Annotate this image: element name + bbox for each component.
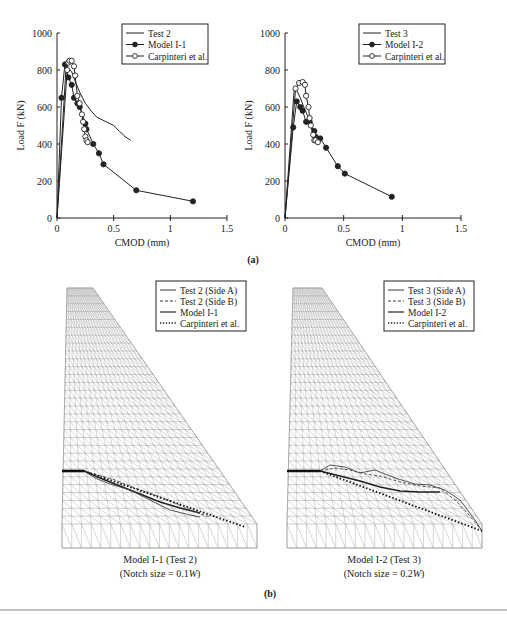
mesh-line	[166, 516, 179, 524]
mesh-line	[107, 500, 108, 508]
mesh-line	[417, 437, 422, 445]
y-tick-label: 200	[37, 176, 52, 187]
mesh-line	[69, 367, 74, 375]
mesh-line	[382, 516, 394, 524]
mesh-line	[325, 304, 329, 312]
mesh-line	[216, 477, 221, 485]
mesh-line	[419, 453, 424, 461]
mesh-line	[320, 296, 324, 304]
mesh-line	[353, 382, 356, 390]
mesh-line	[164, 437, 168, 445]
mesh-line	[316, 516, 317, 524]
mesh-line	[105, 485, 106, 493]
mesh-line	[358, 375, 367, 383]
mesh-line	[147, 430, 157, 438]
mesh-line	[345, 445, 354, 453]
mesh-line	[98, 500, 99, 508]
mesh-line	[66, 359, 70, 367]
mesh-line	[90, 437, 91, 445]
mesh-line	[144, 375, 149, 383]
mesh-line	[135, 382, 139, 390]
mesh-line	[386, 398, 391, 406]
mesh-line	[151, 414, 161, 422]
mesh-line	[368, 406, 378, 414]
mesh-line	[78, 445, 86, 453]
mesh-line	[142, 406, 152, 414]
mesh-line	[305, 493, 314, 501]
mesh-line	[90, 508, 100, 516]
mesh-line	[140, 414, 150, 422]
y-tick-label: 400	[265, 139, 280, 150]
mesh-line	[188, 469, 200, 477]
mesh-line	[158, 406, 163, 414]
mesh-line	[140, 524, 150, 548]
mesh-line	[302, 414, 309, 422]
mesh-line	[136, 406, 139, 414]
mesh-line	[218, 493, 232, 501]
mesh-line	[300, 390, 306, 398]
mesh-line	[185, 430, 190, 438]
mesh-line	[448, 500, 462, 508]
mesh-line	[172, 430, 183, 438]
mesh-line	[155, 422, 159, 430]
mesh-line	[131, 382, 140, 390]
mesh-line	[119, 359, 123, 367]
mesh-line	[376, 390, 381, 398]
mesh-line	[78, 304, 82, 312]
mesh-line	[346, 524, 356, 548]
mesh-line	[409, 461, 421, 469]
mesh-line	[320, 327, 323, 335]
mesh-line	[359, 398, 368, 406]
mesh-line	[363, 406, 372, 414]
mesh-line	[149, 375, 154, 383]
mesh-line	[159, 382, 164, 390]
mesh-line	[241, 500, 246, 508]
mesh-line	[336, 524, 346, 548]
mesh-line	[336, 312, 341, 320]
mesh-line	[66, 343, 69, 351]
mesh-line	[201, 453, 206, 461]
mesh-line	[129, 390, 132, 398]
mesh-line	[154, 390, 164, 398]
mesh-line	[203, 469, 216, 477]
mesh-line	[140, 375, 145, 383]
mesh-line	[331, 493, 332, 501]
mesh-line	[391, 390, 396, 398]
mesh-line	[188, 445, 193, 453]
mesh-line	[313, 319, 315, 327]
mesh-line	[127, 367, 131, 375]
y-tick-label: 600	[37, 102, 52, 113]
mesh-line	[191, 430, 196, 438]
mesh-line	[361, 390, 370, 398]
mesh-line	[347, 453, 357, 461]
mesh-line	[115, 351, 119, 359]
mesh-line	[63, 477, 71, 485]
mesh-line	[326, 461, 327, 469]
mesh-line	[306, 508, 316, 516]
mesh-line	[369, 477, 380, 485]
mesh-line	[439, 461, 444, 469]
mesh-line	[186, 453, 198, 461]
mesh-line	[70, 375, 75, 383]
mesh-line	[232, 500, 237, 508]
mesh-line	[109, 375, 116, 383]
mesh-line	[121, 382, 129, 390]
mesh-line	[385, 524, 395, 548]
mesh-line	[315, 319, 320, 327]
mesh-line	[84, 437, 92, 445]
mesh-line	[386, 430, 397, 438]
mesh-line	[349, 461, 359, 469]
mesh-line	[96, 327, 99, 335]
mesh-line	[71, 477, 79, 485]
mesh-line	[377, 500, 380, 508]
mesh-line	[433, 524, 443, 548]
mesh-line	[163, 414, 174, 422]
mesh-line	[77, 437, 84, 445]
mesh-line	[324, 508, 334, 516]
mesh-line	[80, 398, 81, 406]
mesh-line	[305, 296, 307, 304]
mesh-line	[175, 406, 180, 414]
mesh-line	[106, 493, 116, 501]
mesh-line	[67, 312, 69, 320]
mesh-line	[429, 469, 434, 477]
